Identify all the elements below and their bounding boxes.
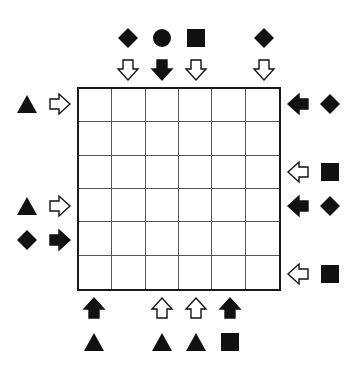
grid-cell-r4-c2[interactable]	[146, 222, 179, 255]
triangle-icon	[184, 330, 208, 354]
arrow-up-solid-icon	[218, 296, 242, 320]
square-icon	[218, 330, 242, 354]
arrow-up-hollow-icon	[150, 296, 174, 320]
grid-cell-r5-c2[interactable]	[146, 256, 179, 289]
diamond-icon	[252, 26, 276, 50]
square-icon	[184, 26, 208, 50]
grid-cell-r5-c5[interactable]	[246, 256, 279, 289]
grid-cell-r5-c4[interactable]	[212, 256, 245, 289]
arrow-right-hollow-icon	[48, 92, 72, 116]
grid-cell-r3-c5[interactable]	[246, 189, 279, 222]
square-icon	[318, 262, 342, 286]
grid-cell-r4-c1[interactable]	[112, 222, 145, 255]
grid-cell-r3-c2[interactable]	[146, 189, 179, 222]
grid-cell-r2-c5[interactable]	[246, 156, 279, 189]
arrow-left-solid-icon	[286, 194, 310, 218]
triangle-icon	[82, 330, 106, 354]
grid-cell-r2-c4[interactable]	[212, 156, 245, 189]
grid-cell-r0-c4[interactable]	[212, 89, 245, 122]
arrow-left-hollow-icon	[286, 262, 310, 286]
grid-cell-r5-c3[interactable]	[179, 256, 212, 289]
arrow-left-hollow-icon	[286, 160, 310, 184]
grid-cell-r3-c4[interactable]	[212, 189, 245, 222]
grid-cell-r4-c3[interactable]	[179, 222, 212, 255]
grid-cell-r2-c3[interactable]	[179, 156, 212, 189]
grid-cell-r0-c3[interactable]	[179, 89, 212, 122]
triangle-icon	[150, 330, 174, 354]
grid-cell-r1-c5[interactable]	[246, 122, 279, 155]
arrow-down-hollow-icon	[116, 58, 140, 82]
arrow-left-solid-icon	[286, 92, 310, 116]
grid-cell-r1-c1[interactable]	[112, 122, 145, 155]
grid-cell-r3-c0[interactable]	[79, 189, 112, 222]
arrow-down-solid-icon	[150, 58, 174, 82]
grid-cell-r4-c0[interactable]	[79, 222, 112, 255]
diamond-icon	[318, 194, 342, 218]
arrow-down-hollow-icon	[252, 58, 276, 82]
puzzle-grid	[77, 87, 281, 291]
grid-cell-r3-c3[interactable]	[179, 189, 212, 222]
grid-cell-r0-c0[interactable]	[79, 89, 112, 122]
diamond-icon	[116, 26, 140, 50]
grid-cell-r1-c3[interactable]	[179, 122, 212, 155]
arrow-down-hollow-icon	[184, 58, 208, 82]
arrow-up-solid-icon	[82, 296, 106, 320]
grid-cell-r1-c0[interactable]	[79, 122, 112, 155]
grid-cell-r0-c1[interactable]	[112, 89, 145, 122]
grid-cell-r2-c0[interactable]	[79, 156, 112, 189]
grid-cell-r2-c2[interactable]	[146, 156, 179, 189]
diamond-icon	[318, 92, 342, 116]
square-icon	[318, 160, 342, 184]
circle-icon	[150, 26, 174, 50]
grid-cell-r2-c1[interactable]	[112, 156, 145, 189]
grid-cell-r1-c2[interactable]	[146, 122, 179, 155]
grid-cell-r0-c5[interactable]	[246, 89, 279, 122]
grid-cell-r5-c1[interactable]	[112, 256, 145, 289]
arrow-right-hollow-icon	[48, 194, 72, 218]
diamond-icon	[15, 228, 39, 252]
grid-cell-r4-c5[interactable]	[246, 222, 279, 255]
grid-cell-r1-c4[interactable]	[212, 122, 245, 155]
grid-cell-r3-c1[interactable]	[112, 189, 145, 222]
arrow-up-hollow-icon	[184, 296, 208, 320]
triangle-icon	[15, 92, 39, 116]
arrow-right-solid-icon	[48, 228, 72, 252]
grid-cell-r5-c0[interactable]	[79, 256, 112, 289]
grid-cell-r4-c4[interactable]	[212, 222, 245, 255]
grid-cell-r0-c2[interactable]	[146, 89, 179, 122]
triangle-icon	[15, 194, 39, 218]
